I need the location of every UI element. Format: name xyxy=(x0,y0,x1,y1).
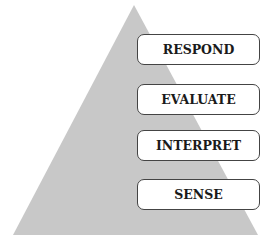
level-label: INTERPRET xyxy=(156,138,241,153)
level-interpret: INTERPRET xyxy=(137,130,260,161)
level-evaluate: EVALUATE xyxy=(137,84,260,115)
level-respond: RESPOND xyxy=(137,34,260,65)
level-label: EVALUATE xyxy=(161,92,235,107)
level-label: RESPOND xyxy=(163,42,235,57)
level-sense: SENSE xyxy=(137,179,260,210)
level-label: SENSE xyxy=(174,187,223,202)
